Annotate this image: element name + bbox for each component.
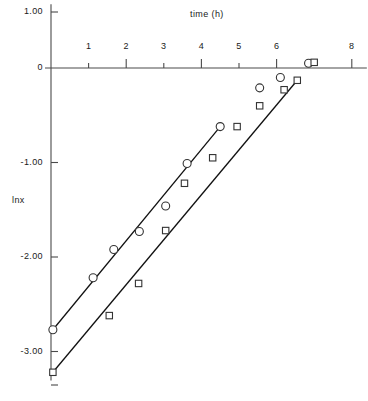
x-tick-label: 4 xyxy=(187,41,215,51)
data-point-square[interactable] xyxy=(234,123,240,129)
data-point-square[interactable] xyxy=(281,87,287,93)
data-point-square[interactable] xyxy=(135,280,141,286)
chart-title: time (h) xyxy=(190,9,224,19)
fit-line-squares xyxy=(53,80,297,372)
x-tick-label: 6 xyxy=(263,41,291,51)
data-point-circle[interactable] xyxy=(162,202,170,210)
y-axis-label: lnx xyxy=(12,195,25,205)
data-point-circle[interactable] xyxy=(276,73,284,81)
x-tick-label: 3 xyxy=(150,41,178,51)
y-tick-label: -2.00 xyxy=(1,251,43,261)
data-point-circle[interactable] xyxy=(110,245,118,253)
x-tick-label: 2 xyxy=(112,41,140,51)
data-point-square[interactable] xyxy=(106,312,112,318)
scatter-plot xyxy=(0,0,368,401)
axes xyxy=(45,4,367,385)
y-tick-label: -3.00 xyxy=(1,346,43,356)
y-tick-label: 0 xyxy=(1,62,43,72)
data-point-circle[interactable] xyxy=(183,159,191,167)
y-tick-label: 1.00 xyxy=(1,6,43,16)
data-point-circle[interactable] xyxy=(135,227,143,235)
data-point-square[interactable] xyxy=(50,369,56,375)
chart-container: time (h) lnx 1234568 1.000-1.00-2.00-3.0… xyxy=(0,0,368,401)
data-point-circle[interactable] xyxy=(216,123,224,131)
data-point-square[interactable] xyxy=(294,77,300,83)
x-tick-label: 1 xyxy=(75,41,103,51)
x-tick-label: 8 xyxy=(338,41,366,51)
data-point-circle[interactable] xyxy=(49,326,57,334)
data-point-circle[interactable] xyxy=(256,84,264,92)
data-point-square[interactable] xyxy=(311,59,317,65)
data-point-square[interactable] xyxy=(181,180,187,186)
x-tick-label: 5 xyxy=(225,41,253,51)
data-point-circle[interactable] xyxy=(89,274,97,282)
data-point-square[interactable] xyxy=(256,103,262,109)
data-point-square[interactable] xyxy=(162,227,168,233)
data-series xyxy=(49,59,318,375)
y-tick-label: -1.00 xyxy=(1,157,43,167)
data-point-square[interactable] xyxy=(209,155,215,161)
